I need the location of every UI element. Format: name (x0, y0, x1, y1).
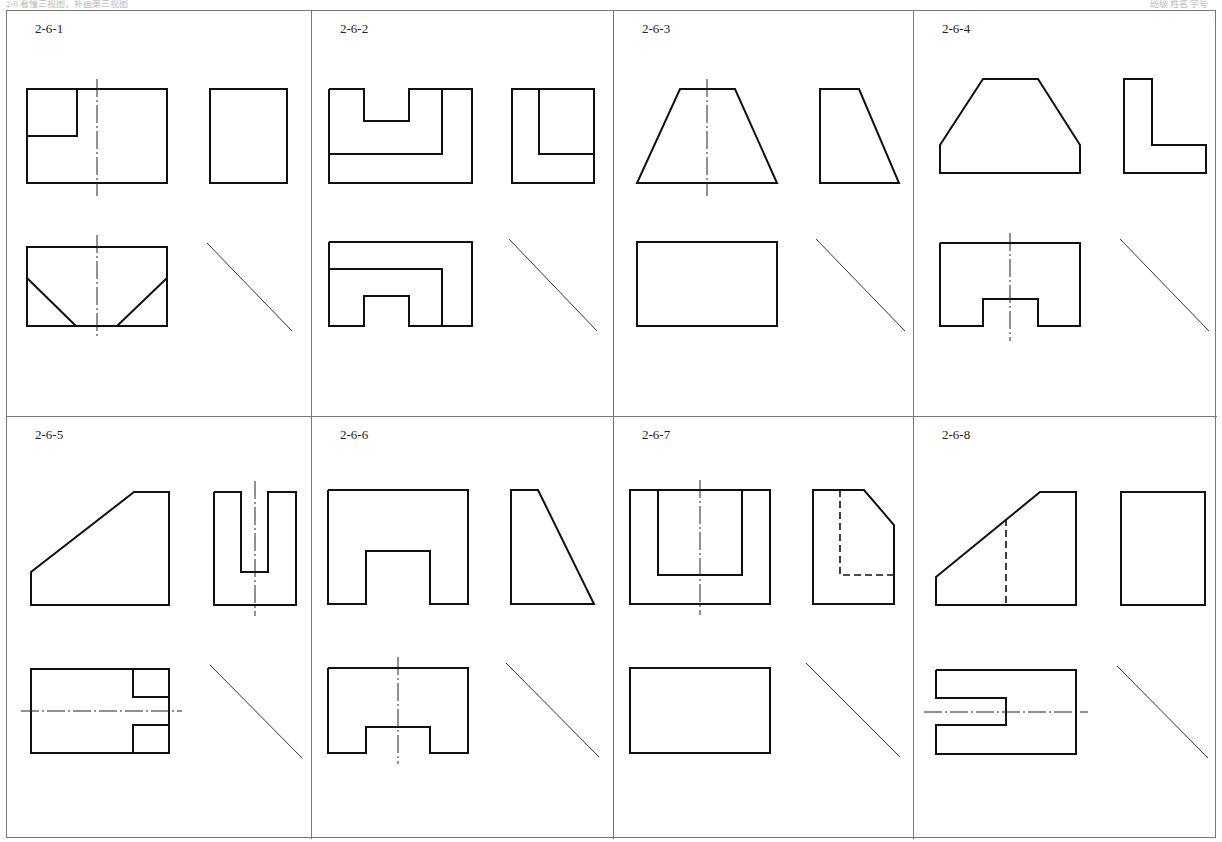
panel-2-6-2: 2-6-2 (311, 11, 613, 416)
drawing-2-6-7 (614, 417, 914, 840)
drawing-2-6-8 (914, 417, 1218, 840)
drawing-2-6-4 (914, 11, 1218, 416)
drawing-2-6-5 (7, 417, 311, 840)
drawing-2-6-6 (312, 417, 614, 840)
header-student-info: 班级 姓名 学号 (1150, 0, 1209, 10)
page-header: 2-6 看懂三视图，补画第三视图 班级 姓名 学号 (0, 0, 1222, 10)
header-title: 2-6 看懂三视图，补画第三视图 (6, 0, 128, 10)
drawing-2-6-3 (614, 11, 914, 416)
drawing-2-6-2 (312, 11, 614, 416)
panel-2-6-7: 2-6-7 (613, 416, 913, 839)
panel-2-6-8: 2-6-8 (913, 416, 1217, 839)
drawing-2-6-1 (7, 11, 311, 416)
panel-2-6-3: 2-6-3 (613, 11, 913, 416)
panel-2-6-1: 2-6-1 (7, 11, 311, 416)
panel-2-6-5: 2-6-5 (7, 416, 311, 839)
panel-2-6-4: 2-6-4 (913, 11, 1217, 416)
exercise-sheet: 2-6-1 2-6-2 2-6-3 (6, 10, 1216, 838)
panel-2-6-6: 2-6-6 (311, 416, 613, 839)
